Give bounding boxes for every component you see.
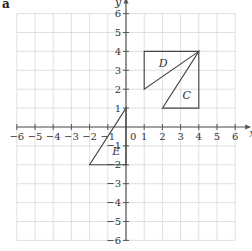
shape-label-c: C (182, 89, 191, 102)
coordinate-grid: xy−6−5−4−3−2−1123456654321−1−2−3−4−5−60D… (0, 0, 252, 251)
x-tick-label: 2 (159, 131, 165, 142)
y-tick-label: 6 (115, 8, 121, 19)
y-tick-label: 3 (115, 65, 121, 76)
x-axis-label: x (249, 127, 252, 140)
x-tick-label: 6 (232, 131, 238, 142)
x-tick-label: 3 (177, 131, 183, 142)
x-tick-label: 5 (214, 131, 220, 142)
shape-label-d: D (158, 57, 168, 70)
x-tick-label: −6 (9, 131, 24, 142)
x-tick-label: −4 (46, 131, 61, 142)
x-tick-label: 1 (141, 131, 147, 142)
x-tick-label: −2 (82, 131, 97, 142)
y-axis-arrow-icon (124, 0, 129, 4)
x-tick-label: 4 (196, 131, 202, 142)
x-tick-label: −3 (64, 131, 79, 142)
origin-label: 0 (130, 131, 136, 142)
x-tick-label: −5 (28, 131, 43, 142)
y-tick-label: −6 (106, 235, 121, 246)
y-tick-label: 4 (115, 46, 121, 57)
y-tick-label: −3 (106, 178, 121, 189)
y-tick-label: 5 (115, 27, 121, 38)
shape-label-e: E (111, 145, 120, 158)
y-tick-label: −4 (106, 197, 121, 208)
y-tick-label: 1 (115, 103, 121, 114)
y-tick-label: −5 (106, 216, 121, 227)
y-tick-label: 2 (115, 84, 121, 95)
